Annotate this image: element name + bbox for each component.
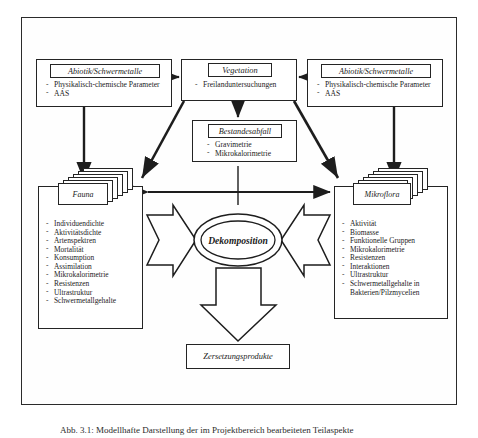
list-item-continuation: Bakterien/Pilzmycelien: [341, 289, 420, 298]
figure-container: Dekomposition Abiotik/Schwermetalle Phys…: [0, 0, 478, 438]
box-abiotik-left: Abiotik/Schwermetalle Physikalisch-chemi…: [36, 59, 172, 107]
vegetation-items: Freilanduntersuchungen: [194, 81, 276, 90]
figure-caption: Abb. 3.1: Modellhafte Darstellung der im…: [60, 425, 420, 438]
zersetzungsprodukte-title: Zersetzungsprodukte: [187, 345, 289, 368]
abiotik-left-title: Abiotik/Schwermetalle: [50, 64, 160, 78]
list-item: AAS: [45, 90, 160, 99]
list-item: AAS: [316, 90, 431, 99]
box-bestandesabfall: Bestandesabfall Gravimetrie Mikrokalorim…: [192, 120, 297, 162]
mikroflora-card-stack: Mikroflora: [352, 168, 438, 210]
list-item: Mikrokalorimetrie: [206, 150, 271, 159]
abiotik-right-title: Abiotik/Schwermetalle: [321, 64, 431, 78]
abiotik-right-items: Physikalisch-chemische Parameter AAS: [316, 81, 431, 99]
vegetation-title: Vegetation: [208, 63, 272, 77]
list-item: Freilanduntersuchungen: [194, 81, 276, 90]
box-zersetzungsprodukte: Zersetzungsprodukte: [186, 344, 290, 369]
fauna-items: Individuendichte Aktivitätsdichte Artens…: [45, 220, 116, 306]
list-item: Schwermetallgehalte: [45, 297, 116, 306]
mikroflora-items: Aktivität Biomasse Funktionelle Gruppen …: [341, 220, 420, 297]
bestandesabfall-items: Gravimetrie Mikrokalorimetrie: [206, 141, 271, 159]
box-vegetation: Vegetation Freilanduntersuchungen: [181, 59, 297, 101]
mikroflora-title: Mikroflora: [353, 183, 411, 205]
fauna-title: Fauna: [58, 183, 108, 205]
bestandesabfall-title: Bestandesabfall: [208, 124, 282, 138]
abiotik-left-items: Physikalisch-chemische Parameter AAS: [45, 81, 160, 99]
fauna-card-stack: Fauna: [57, 168, 137, 210]
box-abiotik-right: Abiotik/Schwermetalle Physikalisch-chemi…: [307, 59, 443, 107]
